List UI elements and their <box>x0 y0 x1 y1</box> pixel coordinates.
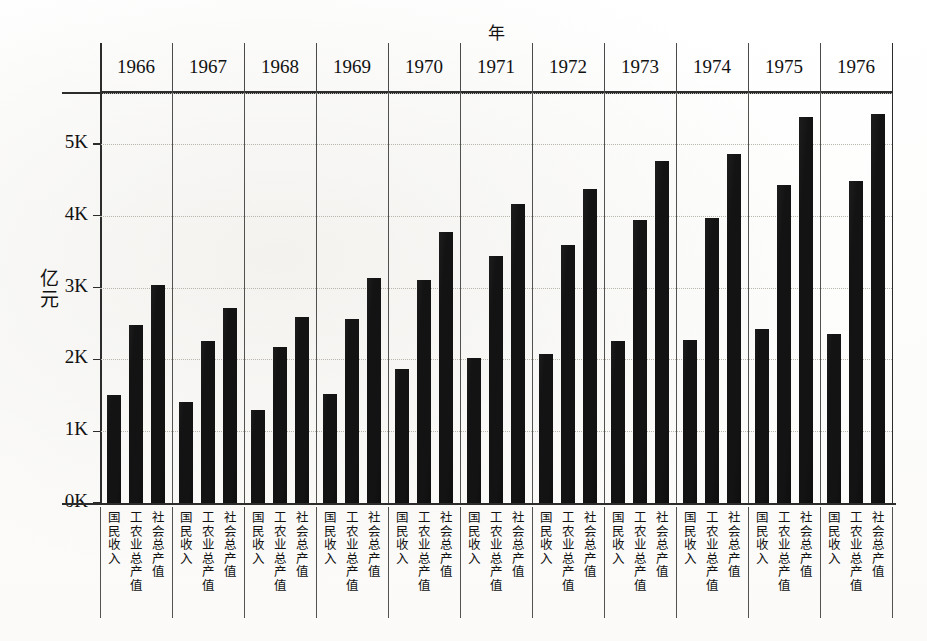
y-axis-line <box>100 43 102 503</box>
category-label-1968-社会总产值: 社会总产值 <box>294 511 307 616</box>
category-label-divider-4 <box>388 507 389 618</box>
group-divider-1973 <box>604 92 605 503</box>
bar-1969-国民收入[interactable] <box>323 394 338 503</box>
bar-1970-社会总产值[interactable] <box>439 232 454 503</box>
category-label-1969-社会总产值: 社会总产值 <box>366 511 379 616</box>
category-label-1971-社会总产值: 社会总产值 <box>510 511 523 616</box>
bar-1968-工农业总产值[interactable] <box>273 347 288 503</box>
category-label-divider-10 <box>820 507 821 618</box>
bar-1976-工农业总产值[interactable] <box>849 181 864 503</box>
y-tick-4K <box>93 215 101 216</box>
category-label-1971-工农业总产值: 工农业总产值 <box>488 511 501 616</box>
bar-1976-社会总产值[interactable] <box>871 114 886 503</box>
category-label-1974-社会总产值: 社会总产值 <box>726 511 739 616</box>
category-label-1973-社会总产值: 社会总产值 <box>654 511 667 616</box>
bar-1974-国民收入[interactable] <box>683 340 698 503</box>
bar-1967-社会总产值[interactable] <box>223 308 238 503</box>
bar-1970-工农业总产值[interactable] <box>417 280 432 503</box>
group-divider-1970 <box>388 92 389 503</box>
x-axis-baseline <box>62 503 896 505</box>
bar-1975-工农业总产值[interactable] <box>777 185 792 503</box>
bar-chart: 年 19661967196819691970197119721973197419… <box>0 0 927 641</box>
category-label-1970-社会总产值: 社会总产值 <box>438 511 451 616</box>
bar-1973-工农业总产值[interactable] <box>633 220 648 503</box>
category-label-1966-工农业总产值: 工农业总产值 <box>128 511 141 616</box>
category-label-1976-工农业总产值: 工农业总产值 <box>848 511 861 616</box>
bar-1973-社会总产值[interactable] <box>655 161 670 503</box>
bar-1967-国民收入[interactable] <box>179 402 194 503</box>
group-divider-1972 <box>532 92 533 503</box>
bar-1968-社会总产值[interactable] <box>295 317 310 503</box>
category-label-1975-社会总产值: 社会总产值 <box>798 511 811 616</box>
category-label-1967-社会总产值: 社会总产值 <box>222 511 235 616</box>
group-divider-1971 <box>460 92 461 503</box>
category-label-divider-0 <box>100 507 101 618</box>
bar-1969-社会总产值[interactable] <box>367 278 382 503</box>
bar-1976-国民收入[interactable] <box>827 334 842 503</box>
category-label-1969-工农业总产值: 工农业总产值 <box>344 511 357 616</box>
category-label-1973-国民收入: 国民收入 <box>610 511 623 616</box>
category-label-1966-国民收入: 国民收入 <box>106 511 119 616</box>
group-divider-1967 <box>172 92 173 503</box>
y-tick-label-2K: 2K <box>42 346 88 368</box>
bar-1972-工农业总产值[interactable] <box>561 245 576 503</box>
category-label-1975-国民收入: 国民收入 <box>754 511 767 616</box>
category-label-1976-社会总产值: 社会总产值 <box>870 511 883 616</box>
category-label-1971-国民收入: 国民收入 <box>466 511 479 616</box>
category-label-divider-9 <box>748 507 749 618</box>
category-label-divider-2 <box>244 507 245 618</box>
bar-1971-工农业总产值[interactable] <box>489 256 504 503</box>
category-label-divider-5 <box>460 507 461 618</box>
y-tick-2K <box>93 359 101 360</box>
group-divider-1974 <box>676 92 677 503</box>
bar-1971-国民收入[interactable] <box>467 358 482 503</box>
group-divider-1969 <box>316 92 317 503</box>
category-label-divider-7 <box>604 507 605 618</box>
category-label-1968-工农业总产值: 工农业总产值 <box>272 511 285 616</box>
bar-1974-社会总产值[interactable] <box>727 154 742 503</box>
category-label-1967-工农业总产值: 工农业总产值 <box>200 511 213 616</box>
bar-1969-工农业总产值[interactable] <box>345 319 360 503</box>
plot-top-gridline <box>100 93 892 94</box>
bar-1966-社会总产值[interactable] <box>151 285 166 503</box>
category-label-1969-国民收入: 国民收入 <box>322 511 335 616</box>
category-label-1976-国民收入: 国民收入 <box>826 511 839 616</box>
category-label-divider-8 <box>676 507 677 618</box>
bar-1966-工农业总产值[interactable] <box>129 325 144 503</box>
category-label-1972-工农业总产值: 工农业总产值 <box>560 511 573 616</box>
category-label-1975-工农业总产值: 工农业总产值 <box>776 511 789 616</box>
y-tick-label-0K: 0K <box>42 490 88 512</box>
plot-right-edge <box>892 43 893 503</box>
bar-1970-国民收入[interactable] <box>395 369 410 503</box>
category-label-1970-国民收入: 国民收入 <box>394 511 407 616</box>
y-tick-5K <box>93 143 101 144</box>
y-tick-label-4K: 4K <box>42 203 88 225</box>
bar-1974-工农业总产值[interactable] <box>705 218 720 503</box>
category-label-1966-社会总产值: 社会总产值 <box>150 511 163 616</box>
category-label-1973-工农业总产值: 工农业总产值 <box>632 511 645 616</box>
bar-1972-社会总产值[interactable] <box>583 189 598 503</box>
group-divider-1976 <box>820 92 821 503</box>
category-label-1972-社会总产值: 社会总产值 <box>582 511 595 616</box>
category-label-1970-工农业总产值: 工农业总产值 <box>416 511 429 616</box>
bar-1972-国民收入[interactable] <box>539 354 554 503</box>
bar-1968-国民收入[interactable] <box>251 410 266 503</box>
y-tick-1K <box>93 431 101 432</box>
bar-1973-国民收入[interactable] <box>611 341 626 503</box>
gridline-5K <box>100 144 892 145</box>
plot-area: 0K1K2K3K4K5K国民收入工农业总产值社会总产值国民收入工农业总产值社会总… <box>0 0 927 641</box>
category-label-1974-国民收入: 国民收入 <box>682 511 695 616</box>
bar-1975-国民收入[interactable] <box>755 329 770 503</box>
bar-1975-社会总产值[interactable] <box>799 117 814 503</box>
category-label-divider-11 <box>892 507 893 618</box>
bar-1971-社会总产值[interactable] <box>511 204 526 503</box>
gridline-4K <box>100 216 892 217</box>
category-label-1967-国民收入: 国民收入 <box>178 511 191 616</box>
y-tick-label-3K: 3K <box>42 275 88 297</box>
y-tick-label-5K: 5K <box>42 131 88 153</box>
y-tick-label-1K: 1K <box>42 418 88 440</box>
category-label-divider-6 <box>532 507 533 618</box>
category-label-divider-3 <box>316 507 317 618</box>
bar-1966-国民收入[interactable] <box>107 395 122 503</box>
bar-1967-工农业总产值[interactable] <box>201 341 216 503</box>
